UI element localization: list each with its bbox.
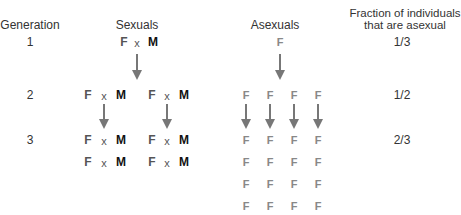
- generation-label-3: 3: [27, 133, 34, 147]
- generation-label-1: 1: [27, 35, 34, 49]
- sexual-female: F: [148, 133, 155, 147]
- asexual-female: F: [267, 178, 274, 190]
- asexuals-header: Asexuals: [251, 18, 300, 32]
- asexual-female: F: [243, 156, 250, 168]
- asexual-female: F: [243, 134, 250, 146]
- sexual-female: F: [148, 88, 155, 102]
- arrow-down-icon: [289, 104, 299, 129]
- cross-symbol: x: [101, 90, 107, 102]
- asexual-female: F: [315, 89, 322, 101]
- asexual-female: F: [291, 200, 298, 212]
- asexual-female: F: [291, 156, 298, 168]
- sexual-male: M: [148, 35, 158, 49]
- asexual-female: F: [267, 200, 274, 212]
- cross-symbol: x: [134, 37, 140, 49]
- asexual-female: F: [243, 89, 250, 101]
- arrow-down-icon: [132, 54, 142, 80]
- generation-label-2: 2: [27, 88, 34, 102]
- fraction-gen-2: 1/2: [394, 88, 411, 102]
- asexual-female: F: [315, 134, 322, 146]
- asexual-female: F: [243, 200, 250, 212]
- arrow-down-icon: [265, 104, 275, 129]
- sexual-male: M: [116, 133, 126, 147]
- fraction-header-line2: that are asexual: [364, 19, 446, 31]
- cross-symbol: x: [101, 135, 107, 147]
- asexual-female: F: [291, 134, 298, 146]
- sexual-female: F: [84, 155, 91, 169]
- sexual-male: M: [116, 155, 126, 169]
- asexual-female: F: [291, 89, 298, 101]
- asexual-female: F: [243, 178, 250, 190]
- fraction-gen-1: 1/3: [394, 35, 411, 49]
- fraction-header-line1: Fraction of individuals: [349, 7, 460, 19]
- arrow-down-icon: [313, 104, 323, 129]
- sexual-male: M: [179, 155, 189, 169]
- sexual-female: F: [84, 88, 91, 102]
- arrow-down-icon: [162, 104, 172, 129]
- sexual-female: F: [120, 35, 127, 49]
- asexual-female: F: [267, 134, 274, 146]
- asexual-female: F: [267, 156, 274, 168]
- asexual-female: F: [315, 178, 322, 190]
- asexual-female: F: [267, 89, 274, 101]
- asexual-female: F: [291, 178, 298, 190]
- cross-symbol: x: [164, 90, 170, 102]
- asexual-female: F: [315, 156, 322, 168]
- sexuals-header: Sexuals: [116, 18, 159, 32]
- cross-symbol: x: [101, 157, 107, 169]
- arrow-down-icon: [275, 54, 285, 80]
- sexual-female: F: [84, 133, 91, 147]
- arrow-down-icon: [241, 104, 251, 129]
- cross-symbol: x: [164, 135, 170, 147]
- sexual-female: F: [148, 155, 155, 169]
- arrow-down-icon: [99, 104, 109, 129]
- asexual-female: F: [277, 36, 284, 48]
- sexual-male: M: [179, 88, 189, 102]
- fraction-gen-3: 2/3: [394, 133, 411, 147]
- sexual-male: M: [116, 88, 126, 102]
- sexual-male: M: [179, 133, 189, 147]
- cross-symbol: x: [164, 157, 170, 169]
- generation-header: Generation: [0, 18, 59, 32]
- asexual-female: F: [315, 200, 322, 212]
